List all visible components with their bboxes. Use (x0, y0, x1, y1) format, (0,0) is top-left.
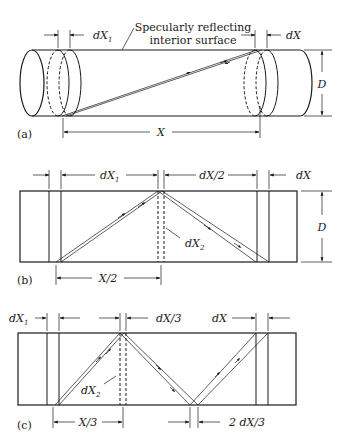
panel-b: dX2 dX1 dX/2 dX D X/2 (b) (17, 169, 332, 287)
right-slice-hidden-arc-2 (256, 50, 267, 116)
ray-c-arrow-6 (235, 359, 239, 363)
ray-c-arrow-2 (106, 350, 110, 355)
x-label: X (156, 126, 166, 139)
radiation-tube-diagram: Specularly reflecting interior surface d… (0, 0, 347, 447)
ray-b-arrow-3 (204, 225, 210, 229)
d-label: D (317, 78, 327, 91)
dx1-label: dX1 (93, 29, 112, 44)
b-dx1-label: dX1 (100, 169, 119, 184)
annotation-leader (122, 28, 134, 50)
b-dxhalf-label: dX/2 (199, 169, 225, 182)
c-2dx3-label: 2 dX/3 (228, 416, 265, 429)
c-dx2-leader (104, 376, 116, 384)
dx-label: dX (286, 29, 302, 42)
right-slice-hidden-arc (244, 50, 255, 116)
cylinder-left-cap (20, 50, 44, 116)
b-dx-label: dX (296, 169, 312, 182)
right-slice-arc (255, 50, 266, 116)
panel-a-label: (a) (17, 128, 32, 141)
ray-b-1 (56, 191, 256, 262)
b-dx2-leader (166, 228, 180, 238)
annotation-line-2: interior surface (150, 34, 237, 47)
b-d-label: D (317, 221, 327, 234)
left-slice-arc-2 (70, 50, 81, 116)
c-dx-label: dX (212, 312, 228, 325)
tube-c-outline (18, 333, 296, 405)
c-dx1-label: dX1 (9, 312, 28, 327)
ray-c-arrow-5 (215, 373, 219, 377)
c-x3-label: X/3 (78, 416, 98, 429)
left-slice-hidden-arc (47, 50, 58, 116)
cylinder-right-cap (300, 50, 312, 116)
panel-b-label: (b) (17, 274, 33, 287)
ray-b-2 (61, 191, 269, 262)
left-slice-arc (58, 50, 69, 116)
c-dx3-label: dX/3 (156, 312, 182, 325)
annotation-line-1: Specularly reflecting (135, 21, 252, 34)
left-slice-hidden-arc-2 (59, 50, 70, 116)
b-x2-label: X/2 (98, 272, 118, 285)
panel-c-label: (c) (17, 419, 32, 432)
ray-b-arrow-1 (118, 214, 124, 218)
ray-a-1 (62, 50, 257, 116)
panel-a: Specularly reflecting interior surface d… (17, 21, 332, 141)
right-slice-arc-2 (267, 50, 278, 116)
ray-a-2 (66, 50, 262, 116)
ray-b-arrow-2 (138, 203, 144, 207)
c-dx2-label: dX2 (81, 384, 101, 399)
b-dx2-label: dX2 (185, 237, 205, 252)
panel-c: dX2 dX1 dX/3 dX X/3 2 dX/3 (c) (9, 312, 296, 432)
